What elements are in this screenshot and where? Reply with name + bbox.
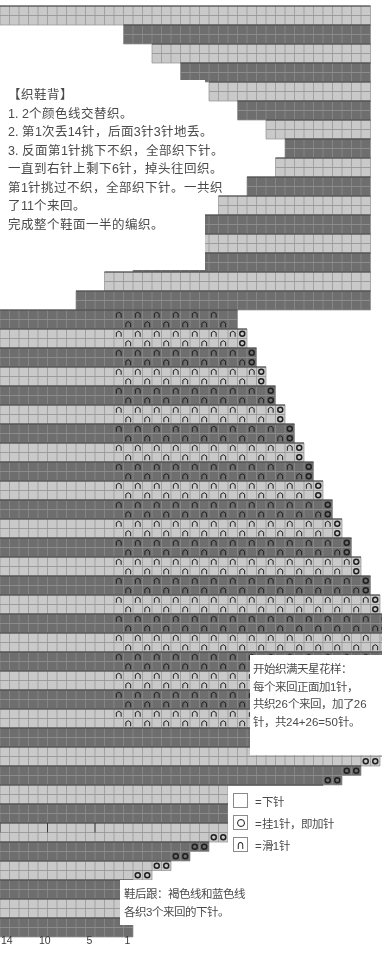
knit-stitch-icon bbox=[233, 793, 248, 808]
legend-label-slip: =滑1针 bbox=[255, 837, 290, 853]
x-axis-tick: 14 bbox=[1, 934, 13, 946]
yarn-over-icon bbox=[233, 815, 248, 830]
legend-item-yarn-over: =挂1针，即加针 bbox=[233, 813, 334, 832]
legend-item-slip: ∩ =滑1针 bbox=[233, 835, 334, 854]
slip-stitch-icon: ∩ bbox=[233, 837, 248, 852]
arch-icon: ∩ bbox=[236, 839, 245, 851]
x-axis-tick: 5 bbox=[87, 934, 93, 946]
x-axis-tick: 10 bbox=[39, 934, 51, 946]
star-pattern-note-text: 开始织满天星花样： 每个来回正面加1针， 共织26个来回，加了26 针，共24+… bbox=[253, 661, 367, 731]
legend-label-knit: =下针 bbox=[255, 793, 284, 809]
heel-note-text: 鞋后跟：褐色线和蓝色线 各织3个来回的下针。 bbox=[124, 886, 245, 921]
x-axis-tick: 1 bbox=[125, 934, 131, 946]
x-axis-ticks: 141051 bbox=[0, 934, 150, 950]
legend-label-yarn-over: =挂1针，即加针 bbox=[255, 815, 334, 831]
legend-item-knit: =下针 bbox=[233, 791, 334, 810]
chart-legend: =下针 =挂1针，即加针 ∩ =滑1针 bbox=[233, 791, 334, 857]
circle-icon bbox=[237, 819, 245, 827]
instructions-text: 【织鞋背】 1. 2个颜色线交替织。 2. 第1次丢14针，后面3针3针地丢。 … bbox=[8, 86, 224, 234]
